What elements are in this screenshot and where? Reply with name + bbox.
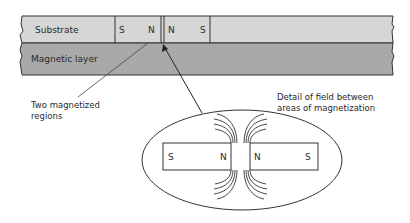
region2-left-pole: N (168, 25, 175, 35)
magnetic-layer-label: Magnetic layer (31, 54, 98, 64)
detail-right-n: N (254, 152, 261, 162)
detail-caption: Detail of field between areas of magneti… (277, 92, 375, 114)
substrate-label: Substrate (35, 25, 79, 35)
region2-right-pole: S (200, 25, 206, 35)
detail-caption-line1: Detail of field between (277, 92, 375, 103)
regions-caption-line1: Two magnetized (31, 100, 100, 111)
region1-right-pole: N (148, 25, 155, 35)
detail-right-s: S (305, 152, 311, 162)
region1-left-pole: S (119, 25, 125, 35)
regions-caption-line2: regions (31, 111, 100, 122)
detail-caption-line2: areas of magnetization (277, 103, 375, 114)
detail-left-n: N (220, 152, 227, 162)
regions-caption: Two magnetized regions (31, 100, 100, 122)
detail-left-s: S (168, 152, 174, 162)
